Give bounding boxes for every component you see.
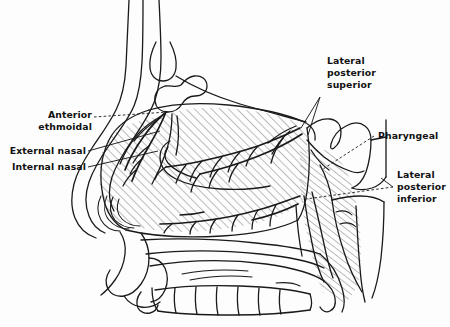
label-lpi-line3: inferior (397, 193, 437, 204)
label-external-nasal: External nasal (10, 145, 86, 156)
label-internal-nasal: Internal nasal (12, 161, 86, 172)
label-lps-line1: Lateral (327, 55, 365, 66)
label-anterior-ethmoidal-line1: Anterior (48, 109, 92, 120)
label-lpi-line2: posterior (397, 181, 446, 192)
label-lps-line2: posterior (327, 67, 376, 78)
anatomical-figure: Anterior ethmoidal External nasal Intern… (0, 0, 450, 327)
label-lps-line3: superior (327, 79, 372, 90)
label-anterior-ethmoidal-line2: ethmoidal (38, 121, 92, 132)
label-pharyngeal: Pharyngeal (378, 130, 438, 141)
nasal-septum-nerve-supply-illustration: Anterior ethmoidal External nasal Intern… (0, 0, 450, 327)
label-lpi-line1: Lateral (397, 169, 435, 180)
